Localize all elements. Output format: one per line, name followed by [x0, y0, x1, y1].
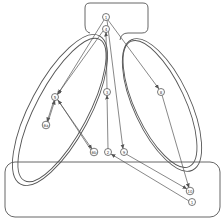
node-3[interactable]: 3: [104, 89, 111, 96]
node-label: 1: [105, 15, 108, 20]
edge-1-9: [107, 20, 123, 149]
node-label: 6b: [91, 150, 97, 155]
node-label: 4: [105, 27, 108, 32]
edge-9-10: [126, 154, 187, 189]
edge-1-8: [108, 20, 159, 89]
edge-4-5: [57, 31, 103, 95]
right-oval-outer-region: [106, 28, 218, 182]
node-4[interactable]: 4: [103, 26, 110, 33]
diagram-svg: 1 4 5 6a 3 6b 2 9 8 10 1: [0, 0, 223, 220]
node-8[interactable]: 8: [158, 89, 165, 96]
node-9[interactable]: 9: [121, 149, 128, 156]
left-oval-inner-region: [1, 27, 122, 193]
node-label: 9: [123, 150, 126, 155]
diagram-canvas: 1 4 5 6a 3 6b 2 9 8 10 1: [0, 0, 223, 220]
edge-3-4: [106, 32, 107, 89]
node-2[interactable]: 2: [105, 149, 112, 156]
node-label: 6a: [44, 123, 50, 128]
edge-5-6a: [47, 100, 54, 122]
edge-8-10: [162, 95, 189, 188]
node-label: 8: [160, 90, 163, 95]
node-6a[interactable]: 6a: [42, 121, 50, 129]
node-10[interactable]: 10: [186, 187, 194, 195]
node-label: 3: [106, 90, 109, 95]
node-label: 2: [107, 150, 110, 155]
node-label: 10: [187, 189, 193, 194]
node-6b[interactable]: 6b: [90, 148, 98, 156]
node-1-top[interactable]: 1: [103, 14, 110, 21]
node-label: 1: [191, 200, 194, 205]
node-5[interactable]: 5: [52, 94, 59, 101]
edge-6a-5: [48, 100, 55, 122]
edges: [47, 20, 189, 201]
edge-1-2: [111, 154, 189, 201]
edge-1-5: [58, 20, 104, 94]
node-label: 5: [54, 95, 57, 100]
node-1-bottom[interactable]: 1: [189, 199, 196, 206]
edge-2-3: [107, 95, 108, 149]
